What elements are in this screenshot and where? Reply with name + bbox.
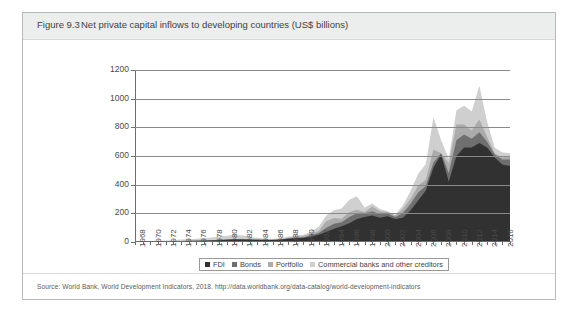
gridline bbox=[135, 185, 510, 186]
gridline bbox=[135, 99, 510, 100]
x-axis-tick bbox=[250, 242, 251, 245]
x-axis-tick bbox=[257, 242, 258, 245]
y-axis-tick bbox=[131, 70, 135, 71]
legend-swatch-icon bbox=[268, 262, 273, 267]
x-axis-tick bbox=[219, 242, 220, 245]
x-axis-tick bbox=[403, 242, 404, 245]
x-axis-tick bbox=[166, 242, 167, 245]
x-axis-tick bbox=[265, 242, 266, 245]
chart-area: 020040060080010001200 196819701972197419… bbox=[23, 40, 555, 274]
y-axis-tick bbox=[131, 213, 135, 214]
gridline bbox=[135, 156, 510, 157]
y-axis-tick bbox=[131, 185, 135, 186]
x-axis-tick bbox=[326, 242, 327, 245]
screenshot-root: Figure 9.3 Net private capital inflows t… bbox=[0, 0, 578, 314]
x-axis-tick bbox=[227, 242, 228, 245]
gridline bbox=[135, 70, 510, 71]
x-axis-tick bbox=[418, 242, 419, 245]
x-axis-tick bbox=[395, 242, 396, 245]
x-axis-tick bbox=[456, 242, 457, 245]
y-axis-tick-label: 0 bbox=[83, 236, 129, 246]
x-axis-tick bbox=[334, 242, 335, 245]
gridline bbox=[135, 213, 510, 214]
x-axis-tick bbox=[433, 242, 434, 245]
x-axis-tick bbox=[510, 242, 511, 245]
y-axis-tick-label: 600 bbox=[83, 150, 129, 160]
x-axis-tick bbox=[280, 242, 281, 245]
x-axis-tick bbox=[150, 242, 151, 245]
x-axis-tick bbox=[196, 242, 197, 245]
x-axis-tick bbox=[181, 242, 182, 245]
footer-divider bbox=[23, 273, 555, 274]
x-axis-tick bbox=[472, 242, 473, 245]
x-axis-tick bbox=[158, 242, 159, 245]
source-note: Source: World Bank, World Development In… bbox=[37, 283, 420, 290]
x-axis-tick bbox=[311, 242, 312, 245]
x-axis-tick bbox=[380, 242, 381, 245]
x-axis-tick bbox=[479, 242, 480, 245]
x-axis-tick bbox=[296, 242, 297, 245]
y-axis-tick-label: 1200 bbox=[83, 64, 129, 74]
x-axis-tick bbox=[303, 242, 304, 245]
y-axis-tick-label: 400 bbox=[83, 179, 129, 189]
x-axis-tick bbox=[502, 242, 503, 245]
x-axis-tick bbox=[288, 242, 289, 245]
x-axis-tick bbox=[357, 242, 358, 245]
legend-swatch-icon bbox=[310, 262, 315, 267]
x-axis-tick bbox=[449, 242, 450, 245]
chart-legend: FDIBondsPortfolioCommercial banks and ot… bbox=[199, 258, 449, 271]
x-axis-tick bbox=[441, 242, 442, 245]
x-axis-tick bbox=[204, 242, 205, 245]
legend-swatch-icon bbox=[205, 262, 210, 267]
figure-header: Figure 9.3 Net private capital inflows t… bbox=[23, 13, 555, 40]
x-axis-tick bbox=[189, 242, 190, 245]
y-axis-tick-label: 800 bbox=[83, 121, 129, 131]
y-axis-tick-label: 1000 bbox=[83, 93, 129, 103]
x-axis-tick bbox=[372, 242, 373, 245]
figure-label: Figure 9.3 bbox=[37, 19, 80, 30]
figure-card: Figure 9.3 Net private capital inflows t… bbox=[22, 12, 556, 300]
gridline bbox=[135, 127, 510, 128]
y-axis-tick bbox=[131, 156, 135, 157]
x-axis-tick bbox=[143, 242, 144, 245]
x-axis-tick bbox=[234, 242, 235, 245]
x-axis-tick bbox=[426, 242, 427, 245]
x-axis-tick bbox=[173, 242, 174, 245]
legend-item[interactable]: Portfolio bbox=[268, 260, 303, 269]
legend-item[interactable]: Bonds bbox=[232, 260, 261, 269]
legend-label: FDI bbox=[213, 260, 225, 269]
x-axis-tick bbox=[365, 242, 366, 245]
x-axis-tick bbox=[495, 242, 496, 245]
x-axis-tick bbox=[464, 242, 465, 245]
x-axis-tick bbox=[273, 242, 274, 245]
legend-swatch-icon bbox=[232, 262, 237, 267]
x-axis-tick bbox=[135, 242, 136, 245]
x-axis-tick bbox=[487, 242, 488, 245]
legend-item[interactable]: FDI bbox=[205, 260, 225, 269]
legend-item[interactable]: Commercial banks and other creditors bbox=[310, 260, 443, 269]
y-axis-tick-label: 200 bbox=[83, 207, 129, 217]
x-axis-tick bbox=[319, 242, 320, 245]
figure-title: Net private capital inflows to developin… bbox=[81, 19, 348, 30]
x-axis-tick bbox=[349, 242, 350, 245]
y-axis-tick bbox=[131, 127, 135, 128]
legend-label: Bonds bbox=[240, 260, 261, 269]
legend-label: Commercial banks and other creditors bbox=[318, 260, 443, 269]
legend-label: Portfolio bbox=[276, 260, 303, 269]
y-axis-tick bbox=[131, 99, 135, 100]
x-axis-tick bbox=[342, 242, 343, 245]
x-axis-tick bbox=[388, 242, 389, 245]
x-axis-tick bbox=[242, 242, 243, 245]
x-axis-tick bbox=[411, 242, 412, 245]
x-axis-tick bbox=[212, 242, 213, 245]
